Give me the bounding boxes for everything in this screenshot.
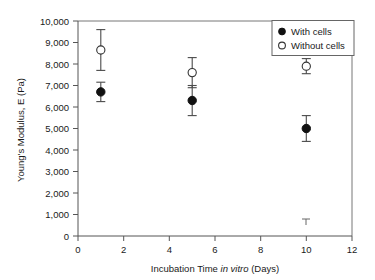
y-axis-tick-labels: 0 1,000 2,000 3,000 4,000 5,000 6,000 7,…: [40, 16, 69, 242]
x-tick-label-10: 10: [301, 244, 312, 255]
y-tick-label-10000: 10,000: [40, 16, 69, 27]
y-tick-label-7000: 7,000: [45, 80, 69, 91]
chart-figure: 0 1,000 2,000 3,000 4,000 5,000 6,000 7,…: [0, 0, 375, 280]
x-tick-label-8: 8: [258, 244, 263, 255]
y-tick-label-0: 0: [64, 231, 69, 242]
legend-open-circle-icon: [279, 42, 286, 49]
y-tick-label-6000: 6,000: [45, 102, 69, 113]
marker-open-circle: [97, 46, 105, 54]
marker-open-circle: [302, 62, 310, 70]
y-tick-label-1000: 1,000: [45, 209, 69, 220]
x-tick-label-2: 2: [121, 244, 126, 255]
y-tick-label-8000: 8,000: [45, 59, 69, 70]
x-tick-label-4: 4: [167, 244, 172, 255]
legend-filled-circle-icon: [279, 28, 286, 35]
x-axis-ticks: [78, 236, 352, 241]
marker-open-circle: [188, 69, 196, 77]
y-tick-label-9000: 9,000: [45, 37, 69, 48]
marker-filled-circle: [97, 88, 105, 96]
x-axis-tick-labels: 0 2 4 6 8 10 12: [75, 244, 357, 255]
y-tick-label-3000: 3,000: [45, 166, 69, 177]
legend-label-without-cells: Without cells: [291, 40, 345, 51]
x-tick-label-6: 6: [212, 244, 217, 255]
legend-label-with-cells: With cells: [291, 26, 332, 37]
y-tick-label-2000: 2,000: [45, 188, 69, 199]
chart-legend: With cells Without cells: [272, 21, 354, 56]
x-axis-title: Incubation Time in vitro (Days): [151, 263, 279, 274]
y-axis-title: Young's Modulus, E (Pa): [15, 78, 26, 182]
x-tick-label-12: 12: [347, 244, 358, 255]
y-axis-ticks: [73, 21, 78, 236]
scatter-plot-svg: 0 1,000 2,000 3,000 4,000 5,000 6,000 7,…: [0, 0, 375, 280]
marker-filled-circle: [188, 96, 196, 104]
x-tick-label-0: 0: [75, 244, 80, 255]
y-tick-label-4000: 4,000: [45, 145, 69, 156]
x-axis-title-plain: Incubation Time: [151, 263, 221, 274]
y-tick-label-5000: 5,000: [45, 123, 69, 134]
marker-filled-circle: [302, 124, 310, 132]
x-axis-title-tail: (Days): [249, 263, 280, 274]
x-axis-title-italic: in vitro: [221, 263, 249, 274]
